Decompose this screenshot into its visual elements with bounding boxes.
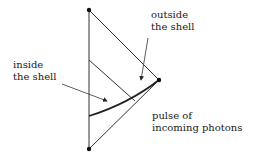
right-point-dot: [157, 78, 161, 82]
pulse-label-line-2: incoming photons: [152, 122, 242, 134]
inside-arrow-icon: [62, 84, 107, 101]
inside-label: inside the shell: [13, 59, 56, 83]
inside-label-line-2: the shell: [13, 71, 56, 83]
outside-arrow-icon: [141, 38, 148, 80]
inner-light-ray-line: [89, 60, 135, 101]
pulse-label-line-1: pulse of: [152, 110, 242, 122]
bottom-point-dot: [87, 147, 91, 151]
past-edge-line: [89, 80, 159, 149]
outside-label-line-2: the shell: [151, 21, 194, 33]
top-point-dot: [87, 8, 91, 12]
outside-label-line-1: outside: [151, 9, 194, 21]
outside-label: outside the shell: [151, 9, 194, 33]
pulse-label: pulse of incoming photons: [152, 110, 242, 134]
inside-label-line-1: inside: [13, 59, 56, 71]
